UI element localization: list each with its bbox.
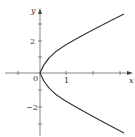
x-tick-label-1: 1 xyxy=(64,76,69,85)
y-axis-arrow-icon xyxy=(38,8,42,14)
y-tick-label-2: 2 xyxy=(30,37,35,46)
x-axis-arrow-icon xyxy=(127,71,133,75)
parabola-curve xyxy=(40,14,124,133)
chart: y x 0 1 2 −2 xyxy=(0,0,135,137)
y-tick-label-neg2: −2 xyxy=(26,103,38,112)
origin-label: 0 xyxy=(33,74,38,83)
x-axis-label: x xyxy=(129,76,134,85)
y-axis-label: y xyxy=(30,6,36,15)
